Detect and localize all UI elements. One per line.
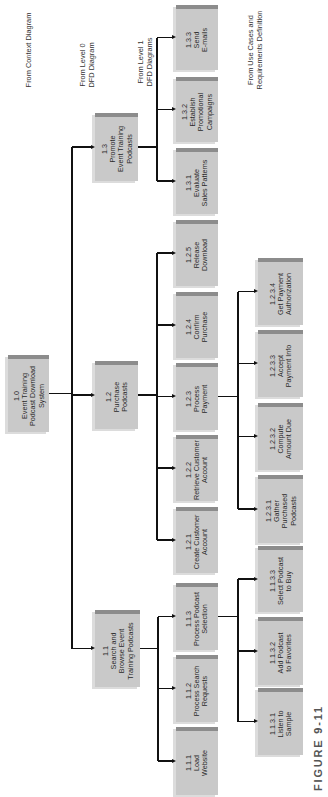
- arrow-icon: [172, 614, 176, 618]
- arrow-icon: [172, 394, 176, 398]
- process-box-1-0: 1.0 Event Training Podcast Download Syst…: [8, 355, 49, 432]
- figure-caption: FIGURE 9-11: [312, 705, 324, 791]
- connector-line: [238, 436, 254, 438]
- arrow-icon: [172, 466, 176, 470]
- arrow-icon: [91, 145, 95, 149]
- process-box-1-1-2: 1.1.2 Process Search Requests: [176, 655, 218, 722]
- process-label: 1.2.3 Process Payment: [185, 384, 210, 412]
- process-label: 1.2.2 Retrieve Customer Account: [185, 440, 210, 500]
- process-label: 1.3.3 Send E-mails: [185, 28, 210, 52]
- process-box-1-1-3-3: 1.1.3.3 Select Podcast to Buy: [258, 546, 303, 612]
- process-box-1-2-3-2: 1.2.3.2 Compute Amount Due: [258, 403, 303, 470]
- process-label: 1.3.1 Evaluate Sales Patterns: [185, 160, 210, 207]
- connector-line: [238, 508, 254, 510]
- connector-line: [157, 109, 172, 111]
- arrow-icon: [254, 649, 258, 653]
- process-label: 1.0 Event Training Podcast Download Syst…: [12, 366, 45, 426]
- process-label: 1.2.3.4 Get Payment Authorization: [268, 273, 293, 315]
- connector-line: [157, 396, 172, 398]
- connector-line: [158, 616, 172, 618]
- connector-line: [72, 394, 91, 396]
- arrow-icon: [254, 577, 258, 581]
- connector-line: [72, 146, 91, 148]
- process-box-1-1-1: 1.1.1 Load Website: [176, 727, 218, 795]
- arrow-icon: [254, 507, 258, 511]
- connector-bus: [71, 147, 73, 649]
- source-note-usecases: From Use Cases and Requirements Definiti…: [247, 11, 264, 90]
- process-box-1-3: 1.3 Promote Event Training Podcasts: [95, 113, 138, 181]
- process-label: 1.1.2 Process Search Requests: [185, 665, 210, 716]
- connector-line: [138, 394, 157, 396]
- arrow-icon: [172, 323, 176, 327]
- arrow-icon: [172, 538, 176, 542]
- arrow-icon: [172, 759, 176, 763]
- connector-line: [238, 291, 254, 293]
- connector-line: [157, 37, 172, 39]
- process-box-1-2-4: 1.2.4 Confirm Purchase: [176, 292, 218, 358]
- process-box-1-2: 1.2 Purchase Podcasts: [95, 361, 138, 429]
- connector-bus: [237, 292, 239, 510]
- process-box-1-3-2: 1.3.2 Establish Promotional Campaigns: [176, 77, 218, 142]
- arrow-icon: [254, 361, 258, 365]
- connector-line: [157, 539, 172, 541]
- arrow-icon: [172, 35, 176, 39]
- arrow-icon: [254, 289, 258, 293]
- process-box-1-2-5: 1.2.5 Release Download: [176, 220, 218, 286]
- process-label: 1.1.3 Process Podcast Selection: [185, 592, 210, 646]
- arrow-icon: [254, 434, 258, 438]
- connector-line: [238, 721, 254, 723]
- process-box-1-2-2: 1.2.2 Retrieve Customer Account: [176, 435, 218, 501]
- process-label: 1.1 Search and Browse Event Training Pod…: [101, 622, 134, 679]
- process-label: 1.1.3.2 Add Podcast to Favorites: [268, 633, 293, 674]
- process-box-1-2-3-1: 1.2.3.1 Gather Purchased Podcasts: [258, 475, 303, 543]
- process-label: 1.3 Promote Event Training Podcasts: [100, 126, 133, 172]
- connector-line: [218, 616, 238, 618]
- connector-line: [49, 393, 72, 395]
- process-box-1-1-3: 1.1.3 Process Podcast Selection: [176, 583, 218, 650]
- process-box-1-1-3-2: 1.1.3.2 Add Podcast to Favorites: [258, 617, 303, 685]
- arrow-icon: [172, 251, 176, 255]
- connector-line: [157, 180, 172, 182]
- process-box-1-1-3-1: 1.1.3.1 Listen to Sample: [258, 688, 303, 755]
- process-box-1-2-1: 1.2.1 Create Customer Account: [176, 507, 218, 573]
- connector-line: [218, 396, 238, 398]
- process-label: 1.2.3.1 Gather Purchased Podcasts: [264, 494, 297, 528]
- process-label: 1.1.3.1 Listen to Sample: [268, 710, 293, 737]
- connector-line: [238, 578, 254, 580]
- arrow-icon: [91, 646, 95, 650]
- process-box-1-1: 1.1 Search and Browse Event Training Pod…: [95, 610, 140, 687]
- process-label: 1.2 Purchase Podcasts: [104, 382, 129, 412]
- connector-line: [138, 146, 157, 148]
- arrow-icon: [254, 719, 258, 723]
- process-box-1-2-3-3: 1.2.3.3 Accept Payment Info: [258, 330, 303, 397]
- process-box-1-2-3-4: 1.2.3.4 Get Payment Authorization: [258, 258, 303, 325]
- process-label: 1.2.1 Create Customer Account: [185, 515, 210, 570]
- connector-line: [158, 688, 172, 690]
- process-box-1-3-1: 1.3.1 Evaluate Sales Patterns: [176, 148, 218, 214]
- process-label: 1.3.2 Establish Promotional Campaigns: [181, 92, 214, 130]
- source-note-level0: From Level 0 DFD Diagram: [79, 42, 96, 87]
- connector-line: [72, 648, 91, 650]
- process-label: 1.2.3.2 Compute Amount Due: [268, 419, 293, 459]
- process-box-1-2-3: 1.2.3 Process Payment: [176, 363, 218, 430]
- source-note-context: From Context Diagram: [25, 13, 34, 88]
- arrow-icon: [91, 393, 95, 397]
- arrow-icon: [172, 179, 176, 183]
- process-label: 1.2.5 Release Download: [185, 239, 210, 271]
- connector-line: [238, 363, 254, 365]
- process-label: 1.2.4 Confirm Purchase: [185, 312, 210, 342]
- process-label: 1.2.3.3 Accept Payment Info: [268, 344, 293, 386]
- connector-line: [157, 252, 172, 254]
- process-box-1-3-3: 1.3.3 Send E-mails: [176, 5, 218, 70]
- connector-line: [140, 648, 158, 650]
- process-label: 1.1.3.3 Select Podcast to Buy: [268, 557, 293, 605]
- arrow-icon: [172, 686, 176, 690]
- arrow-icon: [172, 107, 176, 111]
- connector-line: [158, 760, 172, 762]
- connector-line: [157, 324, 172, 326]
- source-note-level1: From Level 1 DFD Diagrams: [137, 38, 154, 87]
- connector-line: [157, 467, 172, 469]
- connector-line: [238, 650, 254, 652]
- process-label: 1.1.1 Load Website: [185, 750, 210, 776]
